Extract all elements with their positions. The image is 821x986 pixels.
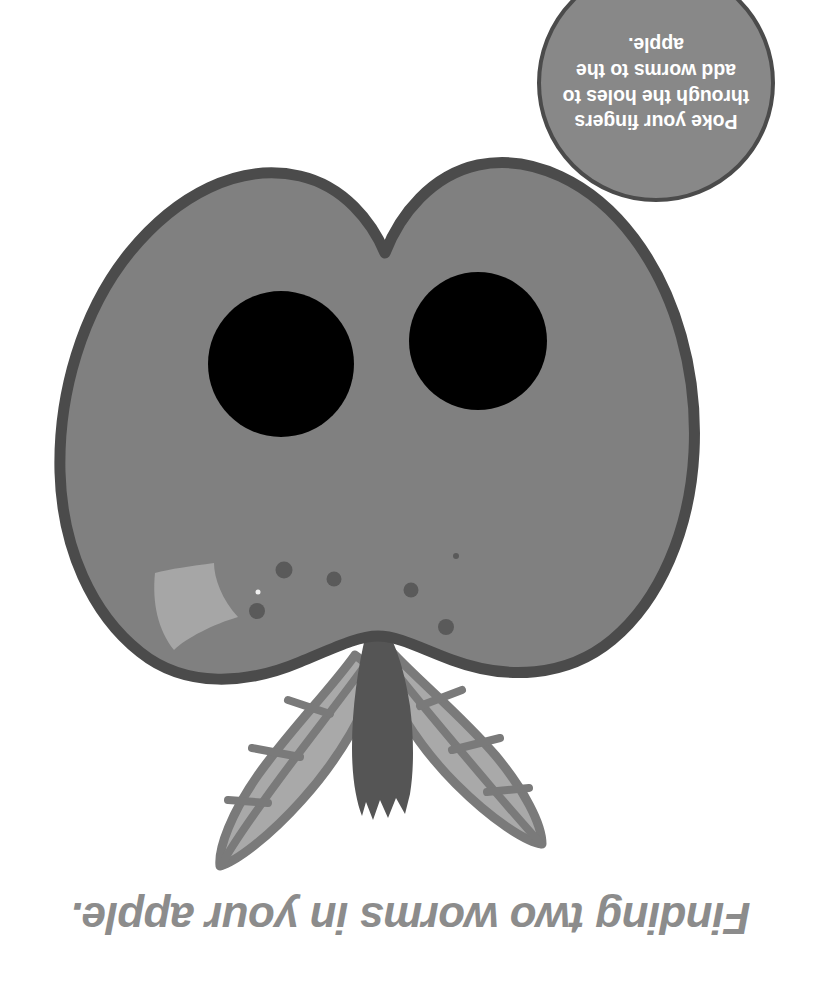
speckle-tiny xyxy=(453,553,459,559)
left-finger-hole[interactable] xyxy=(208,291,354,437)
speckle xyxy=(327,572,342,587)
instruction-badge-text: Poke your fingers through the holes to a… xyxy=(561,32,751,135)
artboard: Poke your fingers through the holes to a… xyxy=(0,0,821,986)
leaf-left-veins xyxy=(221,664,366,866)
speckle xyxy=(438,619,454,635)
speckle xyxy=(404,583,419,598)
caption-text: Finding two worms in your apple. xyxy=(71,895,751,941)
page-canvas: Poke your fingers through the holes to a… xyxy=(0,0,821,986)
speckle xyxy=(276,562,293,579)
speckle-light xyxy=(256,590,261,595)
caption: Finding two worms in your apple. xyxy=(0,895,821,941)
speckle xyxy=(249,603,265,619)
right-finger-hole[interactable] xyxy=(409,272,547,410)
